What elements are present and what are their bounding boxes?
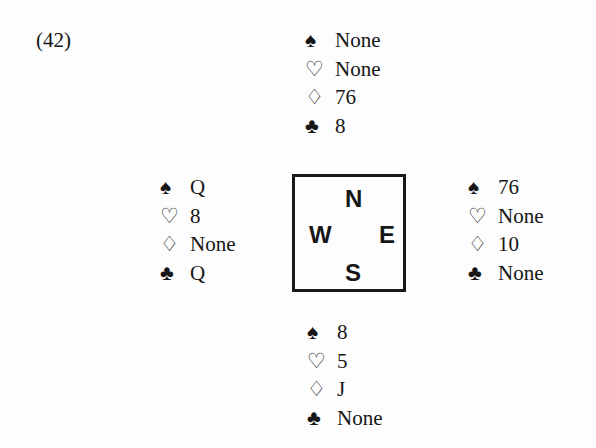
north-spades-row: ♠None [305, 26, 381, 55]
club-icon: ♣ [307, 404, 337, 433]
club-icon: ♣ [160, 259, 190, 288]
north-diamonds-row: ♢76 [305, 83, 381, 112]
spade-icon: ♠ [160, 173, 190, 202]
south-spades: 8 [337, 318, 348, 347]
east-diamonds-row: ♢10 [468, 230, 544, 259]
south-hand: ♠8 ♡5 ♢J ♣None [307, 318, 383, 432]
north-hand: ♠None ♡None ♢76 ♣8 [305, 26, 381, 140]
east-spades: 76 [498, 173, 519, 202]
east-diamonds: 10 [498, 230, 519, 259]
club-icon: ♣ [468, 259, 498, 288]
east-hearts-row: ♡None [468, 202, 544, 231]
heart-icon: ♡ [305, 55, 335, 84]
heart-icon: ♡ [468, 202, 498, 231]
problem-label: (42) [36, 28, 71, 53]
north-spades: None [335, 26, 381, 55]
south-clubs: None [337, 404, 383, 433]
west-clubs-row: ♣Q [160, 259, 236, 288]
south-hearts: 5 [337, 347, 348, 376]
spade-icon: ♠ [468, 173, 498, 202]
west-spades-row: ♠Q [160, 173, 236, 202]
compass-box: N W E S [292, 174, 406, 292]
spade-icon: ♠ [307, 318, 337, 347]
west-spades: Q [190, 173, 205, 202]
spade-icon: ♠ [305, 26, 335, 55]
south-diamonds-row: ♢J [307, 375, 383, 404]
east-hearts: None [498, 202, 544, 231]
heart-icon: ♡ [160, 202, 190, 231]
diamond-icon: ♢ [160, 230, 190, 259]
diamond-icon: ♢ [468, 230, 498, 259]
diamond-icon: ♢ [305, 83, 335, 112]
south-diamonds: J [337, 375, 345, 404]
east-clubs-row: ♣None [468, 259, 544, 288]
west-diamonds-row: ♢None [160, 230, 236, 259]
diamond-icon: ♢ [307, 375, 337, 404]
east-clubs: None [498, 259, 544, 288]
north-diamonds: 76 [335, 83, 356, 112]
south-clubs-row: ♣None [307, 404, 383, 433]
south-spades-row: ♠8 [307, 318, 383, 347]
compass-west: W [309, 221, 332, 249]
west-hearts-row: ♡8 [160, 202, 236, 231]
east-hand: ♠76 ♡None ♢10 ♣None [468, 173, 544, 287]
compass-south: S [345, 259, 361, 287]
west-diamonds: None [190, 230, 236, 259]
north-clubs: 8 [335, 112, 346, 141]
west-hearts: 8 [190, 202, 201, 231]
compass-east: E [379, 221, 395, 249]
west-hand: ♠Q ♡8 ♢None ♣Q [160, 173, 236, 287]
north-hearts: None [335, 55, 381, 84]
club-icon: ♣ [305, 112, 335, 141]
east-spades-row: ♠76 [468, 173, 544, 202]
north-hearts-row: ♡None [305, 55, 381, 84]
heart-icon: ♡ [307, 347, 337, 376]
compass-north: N [345, 185, 362, 213]
west-clubs: Q [190, 259, 205, 288]
south-hearts-row: ♡5 [307, 347, 383, 376]
north-clubs-row: ♣8 [305, 112, 381, 141]
